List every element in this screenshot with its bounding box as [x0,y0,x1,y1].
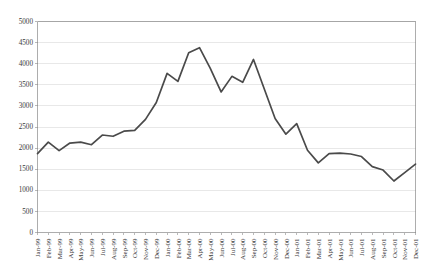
x-axis-tick-label: May-99 [77,238,85,261]
y-axis-tick-label: 500 [22,208,33,216]
x-axis-tick-label: Jun-99 [88,238,96,258]
x-axis-tick-label: Dec-00 [283,238,291,259]
x-axis-tick-label: Aug-00 [239,238,247,260]
x-axis-tick-label: Jan-01 [293,238,301,257]
x-axis-tick-label: May-00 [207,238,215,261]
x-axis-tick-label: Jul-01 [358,238,366,256]
x-axis-tick-label: Dec-99 [153,238,161,259]
y-axis-tick-label: 1500 [19,165,34,173]
y-axis-tick-label: 2500 [19,123,34,131]
x-axis-tick-label: Mar-99 [56,238,64,259]
x-axis-tick-label: Jul-00 [229,238,237,256]
y-axis-tick-label: 2000 [19,144,34,152]
x-axis-tick-label: May-01 [337,238,345,261]
y-axis-tick-label: 4500 [19,39,34,47]
x-axis-tick-label: Oct-00 [261,238,269,258]
x-axis-tick-label: Jan-00 [164,238,172,257]
x-axis-tick-label: Oct-99 [131,238,139,258]
x-axis-tick-label: Oct-01 [391,238,399,258]
x-axis-tick-label: Feb-01 [304,238,312,258]
x-axis-tick-label: Feb-00 [175,238,183,258]
x-axis-tick-label: Dec-01 [412,238,420,259]
x-axis-tick-label: Apr-99 [67,238,75,259]
x-axis-tick-label: Feb-99 [45,238,53,258]
x-axis-tick-label: Sep-99 [121,238,129,258]
x-axis-tick-label: Jan-99 [34,238,42,257]
y-axis-tick-label: 0 [29,229,33,237]
x-axis-tick-label: Mar-01 [315,238,323,259]
line-chart: 0500100015002000250030003500400045005000… [0,0,433,280]
x-axis-tick-label: Aug-01 [369,238,377,260]
y-axis-tick-label: 3500 [19,81,34,89]
x-axis-tick-label: Mar-00 [185,238,193,259]
y-axis-tick-label: 3000 [19,102,34,110]
x-axis-tick-label: Nov-99 [142,238,150,260]
x-axis-tick-label: Sep-00 [250,238,258,258]
y-axis-tick-label: 4000 [19,60,34,68]
x-axis-tick-label: Aug-99 [110,238,118,260]
x-axis-tick-label: Jul-99 [99,238,107,256]
x-axis-tick-label: Jun-00 [218,238,226,258]
x-axis-tick-label: Nov-00 [272,238,280,260]
x-axis-tick-label: Apr-00 [196,238,204,259]
y-axis-tick-label: 1000 [19,186,34,194]
x-axis-tick-label: Apr-01 [326,238,334,259]
x-axis-tick-label: Sep-01 [380,238,388,258]
y-axis-tick-label: 5000 [19,18,34,26]
x-axis-tick-label: Nov-01 [401,238,409,260]
data-series-line [38,48,416,181]
chart-canvas: 0500100015002000250030003500400045005000… [0,0,433,280]
x-axis-tick-label: Jun-01 [347,238,355,258]
